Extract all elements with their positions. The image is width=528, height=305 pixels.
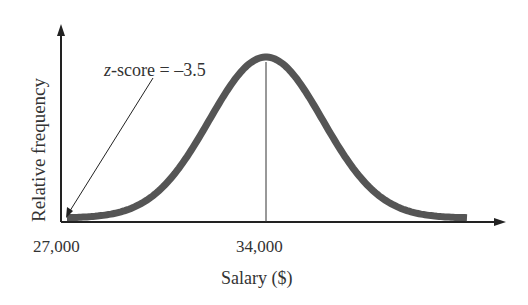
annotation-pointer <box>68 78 153 214</box>
x-axis-arrow-icon <box>494 218 506 226</box>
x-axis-label: Salary ($) <box>221 268 292 289</box>
z-variable: z <box>104 60 111 80</box>
normal-curve <box>67 57 467 218</box>
chart-canvas <box>0 0 528 305</box>
z-score-text: -score = –3.5 <box>111 60 206 80</box>
x-tick-27000: 27,000 <box>33 237 80 257</box>
z-score-annotation: z-score = –3.5 <box>104 60 206 81</box>
x-tick-34000: 34,000 <box>236 237 283 257</box>
y-axis-label: Relative frequency <box>28 78 50 222</box>
y-axis-arrow-icon <box>57 24 65 36</box>
